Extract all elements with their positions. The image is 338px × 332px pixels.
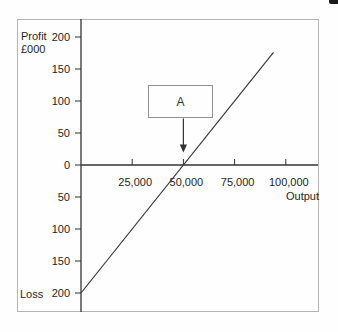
y-axis-label-loss: Loss [20, 288, 43, 300]
y-axis-tick-label: 100 [52, 95, 70, 107]
x-axis-tick-label: 100,000 [269, 176, 309, 188]
annotation-arrowhead [180, 145, 187, 153]
y-axis-tick-label: 100 [52, 223, 70, 235]
y-axis-label-profit: Profit [21, 30, 47, 42]
breakeven-chart: 2001501005005010015020025,00050,00075,00… [0, 0, 338, 332]
annotation-label: A [176, 95, 184, 109]
annotation-box-a: A [148, 85, 213, 118]
x-axis-label: Output [286, 190, 319, 202]
y-axis-tick-label: 0 [64, 159, 70, 171]
y-axis-tick-label: 50 [58, 127, 70, 139]
x-axis-tick-label: 75,000 [221, 176, 255, 188]
y-axis-tick-label: 50 [58, 191, 70, 203]
y-axis-tick-label: 150 [52, 63, 70, 75]
y-axis-tick-label: 150 [52, 255, 70, 267]
scanned-page: 2001501005005010015020025,00050,00075,00… [0, 0, 338, 332]
y-axis-units-label: £000 [21, 43, 45, 55]
y-axis-tick-label: 200 [52, 31, 70, 43]
y-axis-tick-label: 200 [52, 287, 70, 299]
x-axis-tick-label: 50,000 [170, 176, 204, 188]
x-axis-tick-label: 25,000 [118, 176, 152, 188]
